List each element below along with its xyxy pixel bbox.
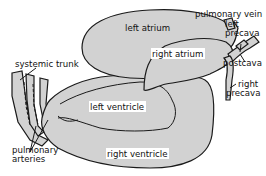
- label-systemic-trunk: systemic trunk: [15, 59, 79, 69]
- label-right-atrium: right atrium: [152, 49, 203, 59]
- label-pulmonary-vein: pulmonary vein: [195, 9, 262, 19]
- label-left-ventricle: left ventricle: [90, 102, 144, 112]
- label-postcava: postcava: [223, 58, 262, 68]
- label-pulmonary-arteries-2: arteries: [12, 154, 46, 164]
- label-left-atrium: left atrium: [125, 23, 170, 33]
- label-right-precava-2: precava: [226, 88, 260, 98]
- label-left-precava-2: precava: [225, 28, 259, 38]
- heart-diagram: left atrium right atrium left ventricle …: [0, 0, 266, 176]
- label-right-ventricle: right ventricle: [107, 149, 167, 159]
